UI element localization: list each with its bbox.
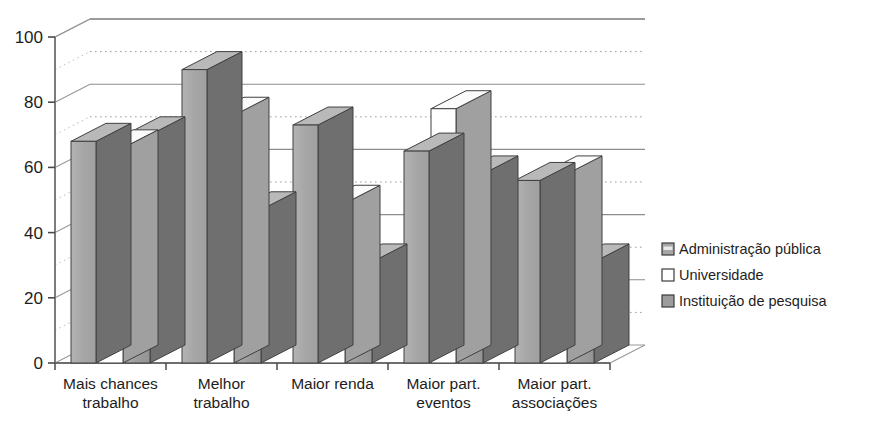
- x-axis-ticks: [55, 363, 610, 370]
- x-axis-category-label: eventos: [416, 394, 471, 411]
- y-axis-tick-label: 40: [24, 224, 43, 243]
- x-axis-category-label: associações: [512, 394, 598, 411]
- legend-item-label: Universidade: [679, 267, 764, 283]
- x-axis-category-labels: Mais chancestrabalhoMelhortrabalhoMaior …: [63, 375, 597, 411]
- x-axis-category-label: Melhor: [198, 375, 245, 392]
- x-axis-category-label: trabalho: [82, 394, 138, 411]
- y-axis-tick-label: 20: [24, 289, 43, 308]
- y-axis-tick-label: 0: [34, 354, 43, 373]
- y-axis-ticks: 020406080100: [15, 28, 55, 373]
- chart-container: 020406080100 Mais chancestrabalhoMelhort…: [0, 0, 877, 435]
- x-axis-category-label: Maior part.: [517, 375, 591, 392]
- bar-3d: [515, 162, 575, 363]
- x-axis-category-label: Mais chances: [63, 375, 158, 392]
- bar-3d: [404, 133, 464, 363]
- y-axis-tick-label: 60: [24, 158, 43, 177]
- chart-legend: Administração públicaUniversidadeInstitu…: [662, 241, 827, 309]
- bar-chart: 020406080100 Mais chancestrabalhoMelhort…: [0, 0, 877, 435]
- y-axis-tick-label: 80: [24, 93, 43, 112]
- bar-3d: [71, 123, 131, 363]
- bar-3d: [293, 107, 353, 363]
- legend-swatch: [662, 295, 674, 307]
- legend-swatch: [662, 243, 674, 255]
- y-axis-tick-label: 100: [15, 28, 43, 47]
- x-axis-category-label: trabalho: [193, 394, 249, 411]
- bar-3d: [182, 52, 242, 363]
- x-axis-category-label: Maior renda: [291, 375, 374, 392]
- legend-swatch: [662, 269, 674, 281]
- bars-layer: [71, 52, 629, 363]
- legend-item-label: Instituição de pesquisa: [679, 293, 827, 309]
- legend-item-label: Administração pública: [679, 241, 822, 257]
- x-axis-category-label: Maior part.: [406, 375, 480, 392]
